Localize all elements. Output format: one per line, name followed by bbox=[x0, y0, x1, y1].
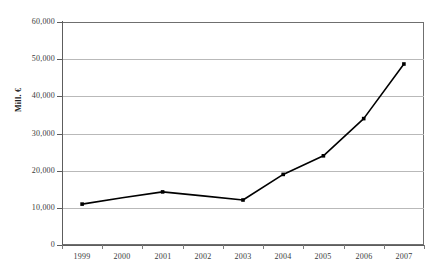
x-axis-tick-label: 2001 bbox=[143, 252, 183, 261]
x-axis-tick-labels: 199920002001200220032004200520062007 bbox=[0, 0, 441, 280]
line-chart: 010,00020,00030,00040,00050,00060,000 Mi… bbox=[0, 0, 441, 280]
x-axis-tick-label: 2004 bbox=[263, 252, 303, 261]
x-axis-tick-label: 2000 bbox=[102, 252, 142, 261]
x-axis-tick-label: 2006 bbox=[344, 252, 384, 261]
x-axis-tick-label: 1999 bbox=[62, 252, 102, 261]
x-axis-tick-label: 2005 bbox=[303, 252, 343, 261]
x-axis-tick-label: 2003 bbox=[223, 252, 263, 261]
x-axis-tick-label: 2002 bbox=[183, 252, 223, 261]
x-axis-tick-label: 2007 bbox=[384, 252, 424, 261]
